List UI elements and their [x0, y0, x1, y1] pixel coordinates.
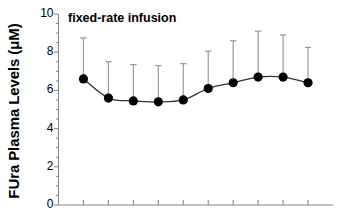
- errorbars-group: [80, 31, 311, 102]
- y-tick-label: 2: [47, 159, 54, 173]
- data-point-marker[interactable]: [303, 78, 312, 87]
- axes-group: [54, 14, 333, 205]
- data-point-marker[interactable]: [179, 95, 188, 104]
- data-point-marker[interactable]: [204, 84, 213, 93]
- data-markers: [79, 72, 313, 106]
- data-line: [83, 76, 308, 102]
- series-line: [83, 76, 308, 102]
- y-tick-label: 4: [47, 121, 54, 135]
- data-point-marker[interactable]: [79, 74, 88, 83]
- y-tick-label: 0: [47, 197, 54, 211]
- data-point-marker[interactable]: [278, 72, 287, 81]
- data-point-marker[interactable]: [154, 97, 163, 106]
- y-tick-label: 8: [47, 44, 54, 58]
- data-point-marker[interactable]: [254, 72, 263, 81]
- data-point-marker[interactable]: [229, 78, 238, 87]
- plot-area: [0, 0, 339, 222]
- y-tick-label: 6: [47, 82, 54, 96]
- y-tick-label: 10: [40, 6, 53, 20]
- data-point-marker[interactable]: [129, 96, 138, 105]
- data-point-marker[interactable]: [104, 93, 113, 102]
- chart-figure: FUra Plasma Levels (μM) fixed-rate infus…: [0, 0, 339, 222]
